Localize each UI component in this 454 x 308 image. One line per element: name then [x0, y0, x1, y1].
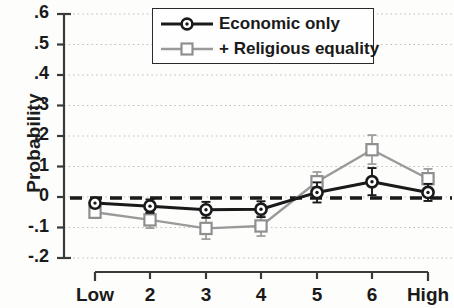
data-point-marker — [144, 201, 155, 212]
legend-swatch-religious-equality — [159, 38, 215, 60]
series-religious-equality — [89, 135, 433, 239]
y-axis-tick-label-2: .4 — [9, 63, 49, 84]
y-axis-tick-label-0: .6 — [9, 2, 49, 23]
y-axis-tick-label-4: .2 — [9, 124, 49, 145]
data-point-marker — [255, 204, 266, 215]
x-axis-tick-label-6: High — [388, 284, 454, 306]
data-point-marker — [200, 204, 211, 215]
data-point-marker — [366, 144, 377, 155]
y-axis-tick-label-1: .5 — [9, 33, 49, 54]
legend: Economic only + Religious equality — [152, 8, 374, 64]
data-point-marker — [422, 187, 433, 198]
legend-swatch-economic-only — [159, 13, 215, 35]
data-point-marker — [255, 220, 266, 231]
legend-item-religious-equality: + Religious equality — [159, 36, 379, 62]
y-axis-tick-label-7: -.1 — [9, 216, 49, 237]
y-axis-tick-label-6: 0 — [9, 185, 49, 206]
data-point-marker — [200, 223, 211, 234]
data-point-marker — [89, 198, 100, 209]
probability-line-chart: Probability .6.5.4.3.2.10-.1-.2 Low23456… — [0, 0, 454, 308]
legend-item-economic-only: Economic only — [159, 11, 340, 37]
data-point-marker — [422, 173, 433, 184]
data-point-marker — [366, 176, 377, 187]
series-economic-only — [89, 168, 433, 218]
data-point-marker — [311, 187, 322, 198]
data-point-marker — [144, 214, 155, 225]
y-axis-tick-label-3: .3 — [9, 94, 49, 115]
y-axis-tick-label-8: -.2 — [9, 246, 49, 267]
legend-label-religious-equality: + Religious equality — [219, 39, 379, 59]
legend-label-economic-only: Economic only — [219, 14, 340, 34]
y-axis-tick-label-5: .1 — [9, 155, 49, 176]
